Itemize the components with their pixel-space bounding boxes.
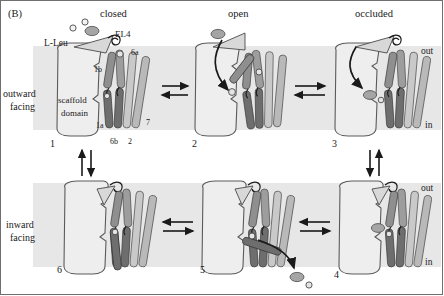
row-label-inward-line2: facing bbox=[10, 232, 35, 243]
substrate-site-5 bbox=[249, 233, 255, 239]
substrate-site-6 bbox=[112, 229, 118, 235]
ion-circle-1 bbox=[70, 25, 76, 31]
substrate-bound-3 bbox=[363, 91, 376, 100]
membrane-label-out-top: out bbox=[421, 46, 433, 57]
membrane-label-in-top: in bbox=[425, 120, 432, 131]
transition-arrow-3-4 bbox=[370, 150, 379, 176]
helix-label-2: 2 bbox=[128, 138, 132, 147]
helix-label-1b: 1b bbox=[94, 66, 102, 75]
substrate-site-2 bbox=[229, 89, 236, 96]
state-number-5: 5 bbox=[200, 264, 205, 275]
membrane-label-in-bottom: in bbox=[425, 257, 432, 268]
substrate-ellipse bbox=[85, 26, 99, 35]
row-label-outward-line2: facing bbox=[10, 101, 35, 112]
released-substrate-5 bbox=[290, 272, 304, 281]
substrate-ellipse-2 bbox=[211, 29, 225, 38]
ion-circle-2 bbox=[82, 19, 88, 25]
helix-label-6a: 6a bbox=[131, 49, 139, 58]
el4-label: EL4 bbox=[115, 29, 131, 39]
substrate-site-4 bbox=[386, 231, 392, 237]
scaffold-domain-1 bbox=[57, 43, 101, 136]
scaffold-domain-label-line1: scaffold bbox=[58, 95, 87, 105]
scaffold-domain-3 bbox=[335, 43, 379, 136]
scaffold-domain-label-line2: domain bbox=[61, 108, 88, 118]
column-header-closed: closed bbox=[100, 8, 127, 20]
helix-label-1a: 1a bbox=[96, 122, 104, 131]
panel-label: (B) bbox=[8, 8, 22, 20]
substrate-site-2b bbox=[256, 69, 262, 75]
state-number-2: 2 bbox=[192, 138, 197, 149]
state-number-1: 1 bbox=[50, 138, 55, 149]
substrate-site-1 bbox=[117, 51, 123, 57]
substrate-label-lleu: L-Leu bbox=[44, 38, 68, 49]
transition-arrow-6-1 bbox=[82, 150, 91, 176]
substrate-bound-4 bbox=[371, 224, 384, 233]
free-substrate-group bbox=[70, 19, 99, 36]
substrate-site-1b bbox=[104, 93, 109, 98]
state-number-6: 6 bbox=[57, 264, 62, 275]
helix-label-7: 7 bbox=[146, 119, 150, 128]
membrane-label-out-bottom: out bbox=[421, 183, 433, 194]
row-label-inward-line1: inward bbox=[6, 219, 34, 230]
state-number-3: 3 bbox=[332, 138, 337, 149]
column-header-open: open bbox=[228, 8, 248, 20]
row-label-outward-line1: outward bbox=[3, 88, 36, 99]
state-number-4: 4 bbox=[334, 269, 339, 280]
helix-label-6b: 6b bbox=[110, 138, 118, 147]
column-header-occluded: occluded bbox=[355, 8, 393, 20]
released-ion-5 bbox=[306, 282, 312, 288]
substrate-site-3 bbox=[378, 97, 384, 103]
